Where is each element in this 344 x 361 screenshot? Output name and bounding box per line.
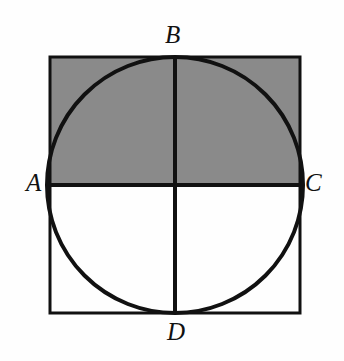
geometry-canvas — [0, 0, 344, 361]
geometry-figure: A B C D — [0, 0, 344, 361]
vertex-label-c: C — [305, 170, 322, 195]
vertex-label-d: D — [167, 319, 185, 344]
vertex-label-a: A — [26, 170, 41, 195]
vertex-label-b: B — [165, 22, 180, 47]
